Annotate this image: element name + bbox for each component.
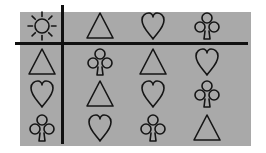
club-icon xyxy=(187,10,227,42)
triangle-icon xyxy=(133,46,173,78)
triangle-icon xyxy=(80,78,120,110)
club-icon xyxy=(22,112,62,144)
vertical-divider xyxy=(61,5,64,144)
sun-icon xyxy=(22,10,62,42)
heart-icon xyxy=(133,78,173,110)
triangle-icon xyxy=(80,10,120,42)
club-icon xyxy=(80,46,120,78)
club-icon xyxy=(187,78,227,110)
heart-icon xyxy=(133,10,173,42)
triangle-icon xyxy=(22,46,62,78)
heart-icon xyxy=(80,112,120,144)
club-icon xyxy=(133,112,173,144)
horizontal-divider xyxy=(15,42,248,45)
heart-icon xyxy=(187,46,227,78)
triangle-icon xyxy=(187,112,227,144)
heart-icon xyxy=(22,78,62,110)
